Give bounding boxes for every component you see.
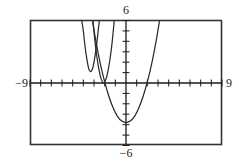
graph-figure: 6 −6 −9 9 xyxy=(0,0,239,164)
axis-label-right: 9 xyxy=(226,77,239,89)
plot-canvas xyxy=(0,0,239,164)
axis-label-bottom: −6 xyxy=(110,147,142,159)
axis-label-left: −9 xyxy=(4,77,28,89)
figure-background xyxy=(0,0,239,164)
axis-label-top: 6 xyxy=(112,4,140,16)
